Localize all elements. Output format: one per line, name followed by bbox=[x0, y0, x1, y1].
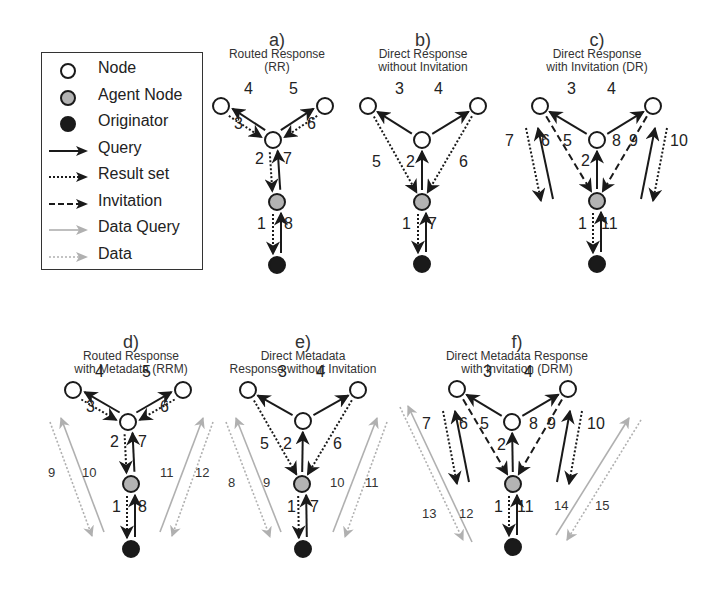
panel-letter: c) bbox=[497, 32, 697, 48]
data-step-number: 12 bbox=[195, 465, 209, 480]
legend-item-data: Data bbox=[42, 243, 202, 269]
step-number: 1 bbox=[494, 498, 503, 516]
gray-solid-arrow-icon bbox=[46, 218, 90, 240]
agent-node bbox=[269, 194, 285, 210]
node-right bbox=[317, 98, 333, 114]
result-arrow-right-to-agent bbox=[308, 400, 352, 474]
data-step-number: 14 bbox=[554, 498, 568, 513]
step-number: 9 bbox=[629, 132, 638, 150]
data-step-number: 15 bbox=[595, 498, 609, 513]
data-step-number: 11 bbox=[160, 465, 174, 480]
step-number: 7 bbox=[422, 415, 431, 433]
panel-title-e: e)Direct MetadataResponse without Invita… bbox=[203, 334, 403, 376]
node-right bbox=[175, 382, 191, 398]
legend-label: Invitation bbox=[98, 192, 162, 210]
data-query-arrow-right bbox=[556, 418, 629, 535]
step-number: 3 bbox=[567, 80, 576, 98]
data-arrow-right bbox=[567, 420, 641, 540]
step-number: 3 bbox=[234, 115, 243, 133]
step-number: 7 bbox=[505, 132, 514, 150]
step-number: 5 bbox=[563, 132, 572, 150]
legend-item-data-query: Data Query bbox=[42, 216, 202, 242]
agent-node bbox=[414, 194, 430, 210]
panel-subtitle: with Invitation (DR) bbox=[497, 61, 697, 74]
data-step-number: 8 bbox=[228, 475, 235, 490]
step-number: 8 bbox=[529, 415, 538, 433]
node-center bbox=[589, 132, 605, 148]
data-step-number: 12 bbox=[459, 506, 473, 521]
step-number: 1 bbox=[578, 215, 587, 233]
step-number: 7 bbox=[283, 150, 292, 168]
step-number: 4 bbox=[244, 80, 253, 98]
legend-item-agent-node: Agent Node bbox=[42, 84, 202, 110]
node-right bbox=[470, 98, 486, 114]
node-center bbox=[120, 414, 136, 430]
step-number: 1 bbox=[112, 498, 121, 516]
legend-item-result-set: Result set bbox=[42, 163, 202, 189]
result-arrow-left-to-agent bbox=[443, 411, 457, 484]
query-arrow-agent-to-right bbox=[641, 128, 655, 199]
step-number: 4 bbox=[434, 80, 443, 98]
result-arrow-agent-to-orig bbox=[298, 496, 299, 538]
legend-label: Agent Node bbox=[98, 86, 183, 104]
step-number: 7 bbox=[138, 433, 147, 451]
step-number: 1 bbox=[287, 498, 296, 516]
invitation-arrow-right-to-agent bbox=[603, 116, 647, 191]
originator-node bbox=[589, 256, 605, 272]
open-circle-icon bbox=[46, 59, 90, 81]
step-number: 2 bbox=[255, 150, 264, 168]
step-number: 4 bbox=[524, 363, 533, 381]
step-number: 5 bbox=[142, 363, 151, 381]
node-center bbox=[504, 414, 520, 430]
panel-letter: b) bbox=[323, 32, 523, 48]
originator-node bbox=[505, 539, 521, 555]
query-arrow-center-to-right bbox=[313, 395, 348, 415]
agent-node bbox=[505, 476, 521, 492]
step-number: 11 bbox=[601, 215, 618, 233]
step-number: 4 bbox=[607, 80, 616, 98]
step-number: 6 bbox=[160, 398, 169, 416]
node-right bbox=[645, 98, 661, 114]
step-number: 6 bbox=[307, 115, 316, 133]
solid-arrow-icon bbox=[46, 139, 90, 161]
step-number: 10 bbox=[670, 132, 688, 150]
panel-title-c: c)Direct Responsewith Invitation (DR) bbox=[497, 32, 697, 74]
step-number: 11 bbox=[517, 498, 534, 516]
step-number: 5 bbox=[289, 80, 298, 98]
step-number: 6 bbox=[541, 132, 550, 150]
gray-circle-icon bbox=[46, 86, 90, 108]
step-number: 5 bbox=[480, 415, 489, 433]
panel-title-f: f)Direct Metadata Responsewith Invitatio… bbox=[417, 334, 617, 376]
node-left bbox=[65, 382, 81, 398]
node-center bbox=[295, 413, 311, 429]
legend-label: Data bbox=[98, 245, 132, 263]
legend-label: Node bbox=[98, 59, 136, 77]
step-number: 4 bbox=[95, 363, 104, 381]
legend: NodeAgent NodeOriginatorQueryResult setI… bbox=[41, 52, 203, 270]
data-step-number: 10 bbox=[330, 475, 344, 490]
legend-label: Originator bbox=[98, 112, 168, 130]
panel-d bbox=[50, 382, 213, 557]
query-arrow-agent-to-center bbox=[278, 151, 281, 190]
panel-subtitle: with Metadata (RRM) bbox=[31, 363, 231, 376]
data-step-number: 11 bbox=[365, 475, 379, 490]
query-arrow-agent-to-right bbox=[557, 411, 570, 482]
step-number: 8 bbox=[284, 215, 293, 233]
originator-node bbox=[123, 541, 139, 557]
node-left bbox=[213, 98, 229, 114]
query-arrow-center-to-left bbox=[258, 395, 293, 415]
panel-b bbox=[360, 98, 486, 272]
dotted-arrow-icon bbox=[46, 165, 90, 187]
step-number: 3 bbox=[483, 363, 492, 381]
data-step-number: 10 bbox=[82, 465, 96, 480]
agent-node bbox=[294, 476, 310, 492]
step-number: 10 bbox=[587, 415, 605, 433]
legend-label: Data Query bbox=[98, 218, 180, 236]
panel-letter: e) bbox=[203, 334, 403, 350]
step-number: 6 bbox=[459, 153, 468, 171]
node-left bbox=[360, 98, 376, 114]
query-arrow-agent-to-center bbox=[133, 433, 135, 472]
result-arrow-center-to-agent bbox=[125, 434, 127, 473]
panel-subtitle: with Invitation (DRM) bbox=[417, 363, 617, 376]
gray-dotted-arrow-icon bbox=[46, 245, 90, 267]
